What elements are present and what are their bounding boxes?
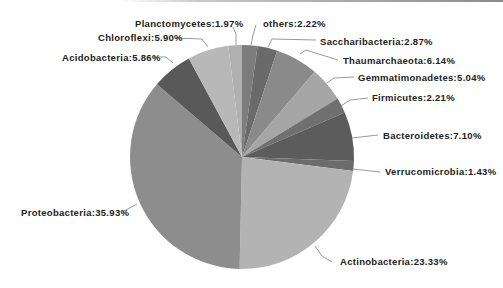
leader-line-bacteroidetes (352, 135, 378, 138)
leader-line-gemmatimonadetes (327, 77, 354, 83)
slice-label-chloroflexi: Chloroflexi:5.90% (98, 32, 183, 43)
slice-label-saccharibacteria: Saccharibacteria:2.87% (320, 36, 433, 47)
slice-label-gemmatimonadetes: Gemmatimonadetes:5.04% (358, 72, 486, 83)
leader-line-firmicutes (341, 98, 368, 106)
leader-line-planctomycetes (233, 27, 236, 45)
pie-slice-actinobacteria (240, 157, 353, 269)
leader-line-others (251, 25, 256, 45)
slice-label-actinobacteria: Actinobacteria:23.33% (340, 256, 448, 267)
slice-label-acidobacteria: Acidobacteria:5.86% (62, 52, 161, 63)
leader-line-verrucomicrobia (353, 169, 380, 172)
pie-slices (130, 45, 354, 269)
slice-label-bacteroidetes: Bacteroidetes:7.10% (383, 130, 482, 141)
leader-line-actinobacteria (315, 246, 332, 262)
slice-label-firmicutes: Firmicutes:2.21% (372, 92, 455, 103)
slice-label-others: others:2.22% (263, 18, 326, 29)
slice-label-verrucomicrobia: Verrucomicrobia:1.43% (385, 166, 497, 177)
leader-line-saccharibacteria (268, 39, 316, 47)
slice-label-planctomycetes: Planctomycetes:1.97% (135, 18, 244, 29)
pie-chart: others:2.22%Saccharibacteria:2.87%Thauma… (0, 0, 503, 288)
leader-line-thaumarchaeota (300, 50, 338, 60)
slice-label-thaumarchaeota: Thaumarchaeota:6.14% (343, 55, 455, 66)
slice-label-proteobacteria: Proteobacteria:35.93% (21, 207, 129, 218)
